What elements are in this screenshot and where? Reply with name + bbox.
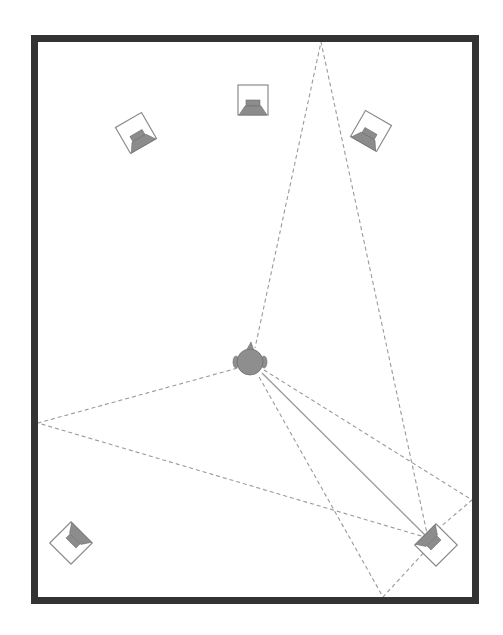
speaker-rear-left (50, 522, 92, 564)
diagram-canvas (0, 0, 503, 635)
listener (233, 342, 267, 375)
room-walls (35, 39, 476, 601)
reflected-path-bottom (258, 375, 428, 597)
speaker-center (238, 85, 268, 115)
reflection-paths (38, 42, 472, 597)
speaker-layout-diagram (0, 0, 503, 635)
speaker-rear-right (415, 524, 457, 566)
head-circle (237, 349, 263, 375)
speaker-front-right (351, 111, 392, 152)
reflected-path-left (38, 368, 428, 538)
speaker-magnet-icon (246, 100, 260, 106)
reflected-path-right (264, 370, 472, 534)
reflected-path-top (255, 42, 428, 538)
speakers (50, 85, 457, 566)
listener-head-icon (233, 342, 267, 375)
speaker-front-left (116, 113, 157, 154)
